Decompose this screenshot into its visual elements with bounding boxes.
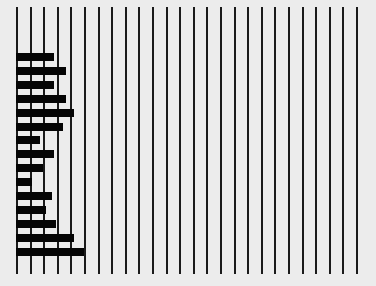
grid-line	[193, 7, 195, 274]
grid-line	[179, 7, 181, 274]
grid-line	[152, 7, 154, 274]
grid-line	[315, 7, 317, 274]
bar-3	[16, 81, 54, 89]
grid-line	[356, 7, 358, 274]
grid-line	[111, 7, 113, 274]
bar-4	[16, 95, 66, 103]
grid-line	[329, 7, 331, 274]
grid-line	[234, 7, 236, 274]
bar-11	[16, 192, 52, 200]
grid-line	[84, 7, 86, 274]
bar-14	[16, 234, 74, 242]
grid-line	[166, 7, 168, 274]
bar-5	[16, 109, 74, 117]
bar-6	[16, 123, 63, 131]
grid-line	[206, 7, 208, 274]
grid-line	[342, 7, 344, 274]
grid-line	[138, 7, 140, 274]
bar-10	[16, 178, 32, 186]
bar-2	[16, 67, 66, 75]
bar-15	[16, 248, 84, 256]
bar-7	[16, 136, 40, 144]
grid-line	[288, 7, 290, 274]
grid-line	[274, 7, 276, 274]
bar-12	[16, 206, 46, 214]
grid-line	[302, 7, 304, 274]
grid-line	[247, 7, 249, 274]
bar-1	[16, 53, 54, 61]
grid-line	[261, 7, 263, 274]
grid-line	[125, 7, 127, 274]
grid-line	[98, 7, 100, 274]
bar-13	[16, 220, 56, 228]
bar-8	[16, 150, 54, 158]
grid-line	[220, 7, 222, 274]
bar-chart	[0, 0, 376, 286]
bar-9	[16, 164, 43, 172]
